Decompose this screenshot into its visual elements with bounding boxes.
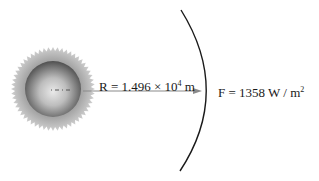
distance-unit: m xyxy=(182,79,195,94)
sun-icon xyxy=(25,61,81,117)
distance-label: R = 1.496 × 104 m xyxy=(99,79,195,95)
distance-label-text: R = 1.496 × 10 xyxy=(99,79,178,94)
flux-label: F = 1358 W / m2 xyxy=(218,85,304,101)
flux-label-text: F = 1358 W / m xyxy=(218,85,300,100)
flux-exponent: 2 xyxy=(300,85,304,94)
